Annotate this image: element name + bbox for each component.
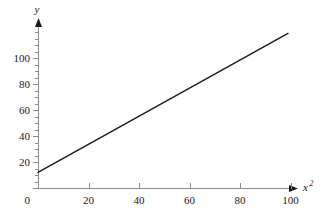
x-axis-title: x <box>302 181 308 193</box>
y-axis-title: y <box>34 3 40 15</box>
x-axis-tick-label: 100 <box>282 194 299 206</box>
y-axis-tick-label: 60 <box>19 104 31 116</box>
x-axis-title-superscript: 2 <box>310 179 314 188</box>
x-axis-tick-label: 40 <box>134 194 146 206</box>
x-axis-tick-label: 20 <box>83 194 95 206</box>
chart-figure: 204060801000 y 20406080100 x 2 <box>0 0 322 213</box>
y-axis-tick-label: 40 <box>19 130 31 142</box>
chart-canvas: 204060801000 y 20406080100 x 2 <box>0 0 322 213</box>
y-axis-tick-label: 20 <box>19 156 31 168</box>
y-axis-tick-label: 80 <box>19 78 31 90</box>
x-axis-tick-label: 80 <box>235 194 247 206</box>
y-axis-tick-label: 100 <box>14 52 31 64</box>
x-axis-tick-label: 60 <box>184 194 196 206</box>
chart-background <box>0 0 322 213</box>
origin-tick-label: 0 <box>25 194 31 206</box>
